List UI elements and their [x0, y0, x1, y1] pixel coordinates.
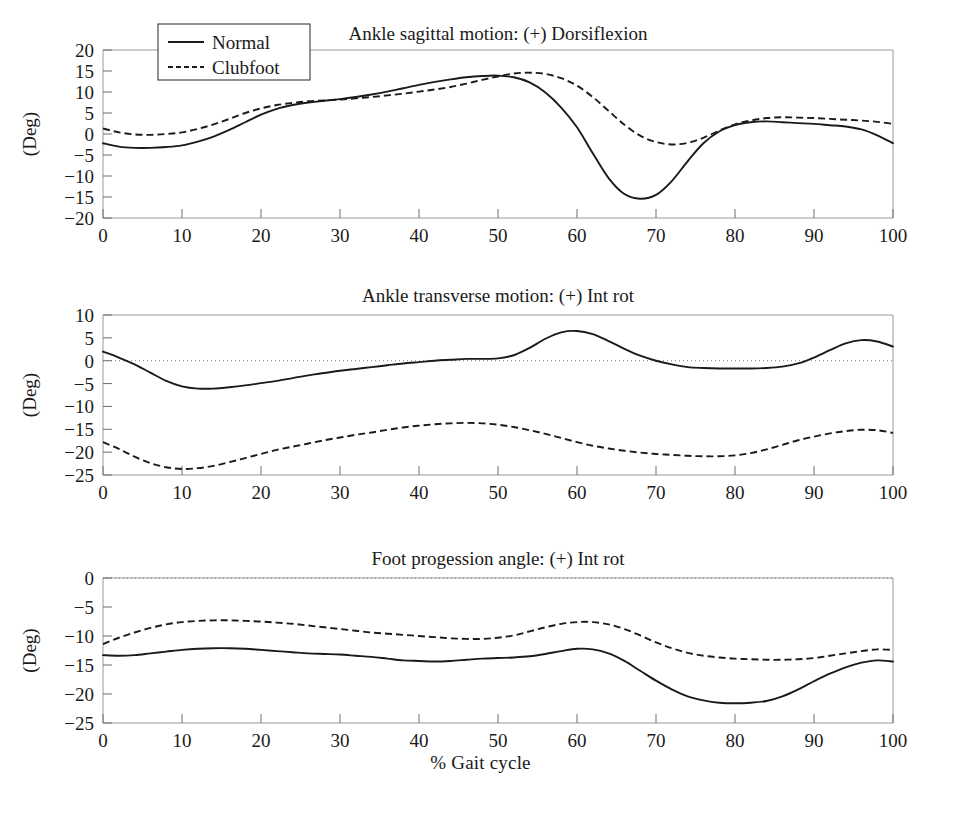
- x-tick-label: 90: [805, 482, 824, 503]
- y-tick-label: −10: [64, 166, 94, 187]
- y-tick-label: 0: [85, 568, 95, 589]
- y-tick-label: 20: [75, 40, 94, 61]
- y-tick-label: 5: [85, 103, 95, 124]
- x-tick-label: 40: [410, 225, 429, 246]
- y-tick-label: −25: [64, 465, 94, 486]
- x-tick-label: 30: [331, 730, 350, 751]
- x-tick-label: 60: [568, 225, 587, 246]
- legend-label-clubfoot: Clubfoot: [212, 57, 280, 78]
- chart-svg: Foot progession angle: (+) Int rot(Deg)0…: [0, 525, 961, 775]
- chart-panel-ankle-sagittal: Ankle sagittal motion: (+) Dorsiflexion(…: [0, 0, 961, 260]
- series-line-normal: [103, 331, 893, 389]
- y-tick-label: 0: [85, 351, 95, 372]
- y-tick-label: −20: [64, 684, 94, 705]
- x-tick-label: 80: [726, 482, 745, 503]
- x-axis-title: % Gait cycle: [0, 752, 961, 774]
- axes-frame: [103, 315, 893, 475]
- x-tick-label: 80: [726, 225, 745, 246]
- y-tick-label: −15: [64, 655, 94, 676]
- x-tick-label: 70: [647, 225, 666, 246]
- x-tick-label: 100: [879, 482, 908, 503]
- x-tick-label: 0: [98, 225, 108, 246]
- y-tick-label: −25: [64, 713, 94, 734]
- series-line-normal: [103, 76, 893, 199]
- chart-svg: Ankle transverse motion: (+) Int rot(Deg…: [0, 260, 961, 525]
- y-tick-label: −10: [64, 626, 94, 647]
- y-tick-label: 10: [75, 305, 94, 326]
- x-tick-label: 70: [647, 730, 666, 751]
- x-tick-label: 10: [173, 225, 192, 246]
- gait-analysis-figure: Ankle sagittal motion: (+) Dorsiflexion(…: [0, 0, 961, 817]
- x-tick-label: 80: [726, 730, 745, 751]
- chart-title: Ankle transverse motion: (+) Int rot: [362, 285, 635, 307]
- series-line-normal: [103, 648, 893, 703]
- x-tick-label: 50: [489, 225, 508, 246]
- y-tick-label: −15: [64, 187, 94, 208]
- y-tick-label: 10: [75, 82, 94, 103]
- y-tick-label: −5: [74, 374, 94, 395]
- x-axis-title-label: % Gait cycle: [430, 752, 531, 773]
- x-tick-label: 20: [252, 225, 271, 246]
- y-tick-label: −10: [64, 396, 94, 417]
- x-tick-label: 30: [331, 482, 350, 503]
- x-tick-label: 90: [805, 225, 824, 246]
- x-tick-label: 20: [252, 730, 271, 751]
- y-tick-label: −5: [74, 597, 94, 618]
- y-tick-label: 5: [85, 328, 95, 349]
- x-tick-label: 30: [331, 225, 350, 246]
- x-tick-label: 0: [98, 730, 108, 751]
- chart-panel-foot-progression: Foot progession angle: (+) Int rot(Deg)0…: [0, 525, 961, 775]
- y-tick-label: −15: [64, 419, 94, 440]
- x-tick-label: 50: [489, 730, 508, 751]
- x-tick-label: 60: [568, 730, 587, 751]
- axes-frame: [103, 578, 893, 723]
- y-tick-label: −20: [64, 442, 94, 463]
- x-tick-label: 10: [173, 482, 192, 503]
- chart-title: Ankle sagittal motion: (+) Dorsiflexion: [349, 23, 648, 45]
- y-tick-label: −20: [64, 208, 94, 229]
- chart-svg: Ankle sagittal motion: (+) Dorsiflexion(…: [0, 0, 961, 260]
- x-tick-label: 40: [410, 730, 429, 751]
- x-tick-label: 10: [173, 730, 192, 751]
- x-tick-label: 100: [879, 225, 908, 246]
- y-tick-label: 0: [85, 124, 95, 145]
- y-tick-label: 15: [75, 61, 94, 82]
- x-tick-label: 40: [410, 482, 429, 503]
- x-tick-label: 0: [98, 482, 108, 503]
- x-tick-label: 60: [568, 482, 587, 503]
- x-tick-label: 100: [879, 730, 908, 751]
- x-tick-label: 70: [647, 482, 666, 503]
- x-tick-label: 50: [489, 482, 508, 503]
- chart-panel-ankle-transverse: Ankle transverse motion: (+) Int rot(Deg…: [0, 260, 961, 525]
- y-axis-label: (Deg): [19, 112, 41, 156]
- x-tick-label: 20: [252, 482, 271, 503]
- x-tick-label: 90: [805, 730, 824, 751]
- y-axis-label: (Deg): [19, 373, 41, 417]
- legend-label-normal: Normal: [212, 32, 270, 53]
- y-tick-label: −5: [74, 145, 94, 166]
- series-line-clubfoot: [103, 423, 893, 469]
- series-line-clubfoot: [103, 620, 893, 660]
- chart-title: Foot progession angle: (+) Int rot: [372, 548, 626, 570]
- y-axis-label: (Deg): [19, 628, 41, 672]
